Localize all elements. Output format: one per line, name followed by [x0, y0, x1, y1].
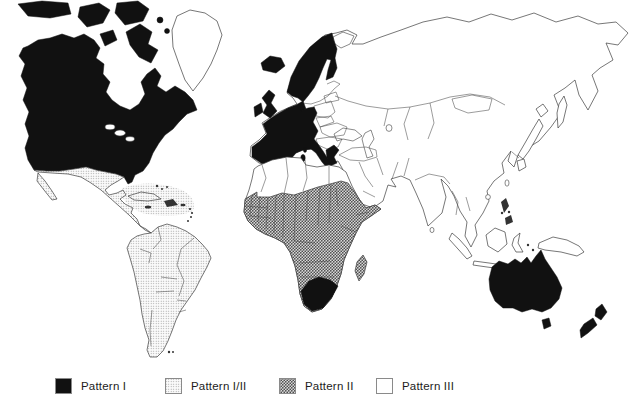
- ireland: [254, 103, 263, 117]
- australia: [489, 250, 562, 312]
- madagascar: [355, 255, 367, 281]
- greenland: [172, 10, 222, 91]
- philippines: [501, 198, 513, 225]
- tasmania: [542, 318, 551, 329]
- region-oceania: [489, 250, 607, 338]
- legend-label-pattern-i: Pattern I: [81, 380, 126, 392]
- legend-swatch-pattern-i: [55, 378, 72, 394]
- figure-world-map-epidemiological-patterns: Pattern I Pattern I/II Pattern II Patter…: [0, 0, 635, 416]
- legend-swatch-pattern-i-ii: [165, 378, 182, 394]
- new-zealand-north-island: [595, 304, 607, 320]
- united-kingdom: [262, 90, 277, 118]
- corsica: [303, 148, 306, 153]
- legend-item-pattern-i-ii: Pattern I/II: [165, 378, 246, 394]
- sakhalin: [557, 96, 567, 128]
- jamaica: [145, 206, 151, 209]
- borneo: [486, 228, 507, 252]
- legend-label-pattern-iii: Pattern III: [402, 380, 454, 392]
- new-guinea: [538, 237, 584, 256]
- legend-item-pattern-iii: Pattern III: [376, 378, 454, 394]
- legend: Pattern I Pattern I/II Pattern II Patter…: [0, 378, 635, 402]
- falkland-islands: [168, 351, 174, 353]
- legend-swatch-pattern-ii: [279, 378, 296, 394]
- legend-item-pattern-i: Pattern I: [55, 378, 126, 394]
- legend-label-pattern-ii: Pattern II: [305, 380, 354, 392]
- aral-sea: [386, 125, 392, 132]
- legend-item-pattern-ii: Pattern II: [279, 378, 354, 394]
- baja-california: [37, 173, 57, 200]
- sri-lanka: [430, 227, 434, 232]
- sulawesi: [512, 233, 523, 252]
- taiwan: [505, 180, 509, 186]
- map-area: [0, 0, 635, 372]
- south-america: [127, 224, 211, 357]
- hainan: [486, 195, 491, 200]
- legend-swatch-pattern-iii: [376, 378, 393, 394]
- world-map: [0, 0, 635, 372]
- iceland: [261, 56, 285, 73]
- japan-kyushu: [517, 159, 526, 171]
- region-latin-america: [34, 167, 211, 357]
- new-zealand-south-island: [580, 318, 597, 338]
- region-north-america: [18, 1, 222, 184]
- puerto-rico: [180, 204, 185, 207]
- legend-label-pattern-i-ii: Pattern I/II: [191, 380, 246, 392]
- canada-usa-alaska: [19, 34, 197, 184]
